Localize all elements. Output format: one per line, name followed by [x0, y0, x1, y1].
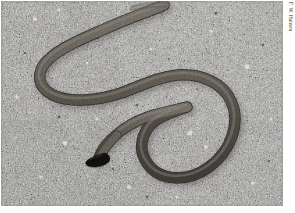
photo-canvas — [1, 1, 283, 206]
figure-root: F. W. Hansen — [0, 0, 295, 213]
photograph — [1, 1, 283, 206]
photo-credit: F. W. Hansen — [284, 2, 295, 48]
photo-credit-text: F. W. Hansen — [287, 2, 292, 31]
photo-grain-overlay — [1, 1, 283, 206]
